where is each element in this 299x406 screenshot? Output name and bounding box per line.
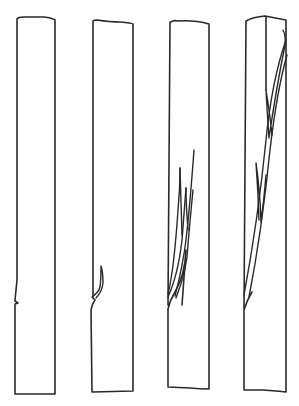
specimen-4 — [244, 16, 287, 392]
specimen-2 — [91, 20, 133, 392]
specimen-1 — [15, 17, 55, 394]
diagram-canvas — [0, 0, 299, 406]
specimen-3 — [168, 21, 209, 389]
